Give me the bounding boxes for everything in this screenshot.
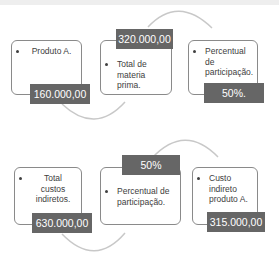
value-label: 50%. <box>204 83 264 103</box>
step-text: Percentual de participação. <box>117 186 174 207</box>
value-label: 160.000,00 <box>30 84 90 104</box>
step-box-percentual-2: Percentual de participação. <box>100 167 181 225</box>
value-label: 320.000,00 <box>116 29 173 49</box>
value-label: 50% <box>122 155 180 175</box>
step-text: Produto A. <box>28 46 75 57</box>
step-text: Total custos indiretos. <box>31 173 75 205</box>
value-label: 630.000,00 <box>32 213 92 233</box>
step-text: Total de materia prima. <box>117 59 165 91</box>
step-text: Custo indireto produto A. <box>209 173 251 205</box>
step-text: Percentual de participação. <box>205 46 251 78</box>
value-label: 315.000,00 <box>207 212 265 232</box>
